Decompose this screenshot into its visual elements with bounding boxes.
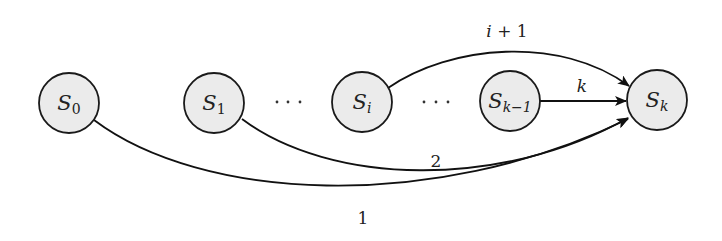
node-s0-label: S	[57, 91, 71, 115]
node-s0: S0	[39, 73, 99, 133]
node-sk-minus-1-subscript: k−1	[503, 99, 532, 115]
node-s0-subscript: 0	[72, 101, 81, 117]
edge-label-1: 1	[358, 208, 369, 228]
node-sk-subscript: k	[660, 98, 668, 114]
ellipsis-1	[276, 101, 302, 104]
node-s1-label: S	[202, 91, 216, 115]
edge-label-plus-one: + 1	[492, 21, 528, 41]
node-sk: Sk	[627, 70, 687, 130]
state-graph-diagram: 1 2 i + 1 k S0 S1 Si Sk−1 Sk	[0, 0, 722, 241]
ellipsis-2	[423, 101, 450, 104]
edge-label-i-plus-1: i + 1	[486, 21, 527, 41]
edge-label-k: k	[577, 76, 587, 96]
node-s1: S1	[184, 73, 244, 133]
node-sk-minus-1: Sk−1	[480, 71, 540, 131]
node-sk-label: S	[646, 88, 660, 112]
node-si-subscript: i	[367, 100, 371, 116]
node-sk-minus-1-label: S	[488, 89, 502, 113]
edge-label-2: 2	[431, 151, 442, 171]
node-s1-subscript: 1	[217, 101, 226, 117]
node-si-label: S	[353, 90, 367, 114]
node-si: Si	[332, 72, 392, 132]
